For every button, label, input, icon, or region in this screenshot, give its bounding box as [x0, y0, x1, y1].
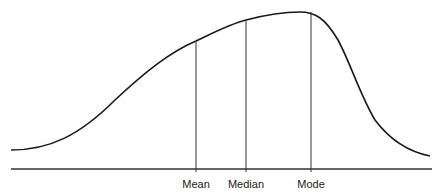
mode-label: Mode — [297, 178, 325, 190]
distribution-curve — [11, 12, 430, 156]
skewed-distribution-diagram — [0, 0, 438, 195]
mean-label: Mean — [182, 178, 210, 190]
median-label: Median — [228, 178, 264, 190]
